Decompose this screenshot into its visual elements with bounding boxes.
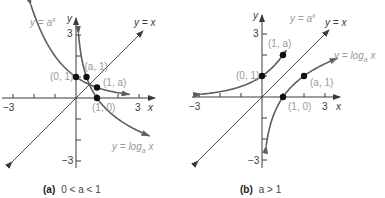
figure: −3 3 x 3 −3 y y = x y = ax y = loga x (0… [0, 0, 385, 198]
point-marker [73, 74, 79, 80]
point-label: (a, 1) [310, 77, 333, 88]
x-axis-label: x [147, 102, 154, 113]
panel-a: −3 3 x 3 −3 y y = x y = ax y = loga x (0… [2, 5, 156, 195]
exponential-label: y = ax [289, 12, 316, 24]
point-label: (1, a) [268, 38, 291, 49]
point-label: (1, 0) [92, 102, 115, 113]
point-marker [259, 73, 265, 79]
point-label: (0, 1) [50, 71, 73, 82]
y-tick-label-min: −3 [62, 155, 74, 166]
x-tick-label-min: −3 [189, 101, 201, 112]
caption-b: (b)a > 1 [240, 184, 282, 195]
exponential-label: y = ax [29, 16, 56, 28]
x-axis-label: x [335, 101, 342, 112]
logarithmic-label: y = loga x [111, 141, 154, 154]
point-label: (a, 1) [85, 61, 108, 72]
identity-label: y = x [324, 17, 347, 28]
point-marker [94, 95, 100, 101]
point-marker [83, 74, 89, 80]
x-tick-label-max: 3 [135, 102, 141, 113]
identity-label: y = x [133, 17, 156, 28]
identity-line [198, 30, 329, 161]
point-label: (1, 0) [288, 101, 311, 112]
point-marker [301, 73, 307, 79]
point-label: (1, a) [103, 77, 126, 88]
points: (0, 1)(a, 1)(1, a)(1, 0) [50, 61, 126, 113]
x-tick-label-max: 3 [322, 101, 328, 112]
point-marker [94, 84, 100, 90]
x-tick-label-min: −3 [3, 102, 15, 113]
y-tick-label-max: 3 [67, 28, 73, 39]
y-axis-label: y [66, 13, 73, 24]
points: (0, 1)(1, a)(a, 1)(1, 0) [236, 38, 333, 112]
point-marker [280, 94, 286, 100]
logarithmic-label: y = loga x [333, 50, 376, 63]
y-axis-label: y [252, 10, 259, 21]
y-tick-label-max: 3 [253, 28, 259, 39]
point-marker [280, 52, 286, 58]
point-label: (0, 1) [236, 70, 259, 81]
panel-b: −3 3 x 3 −3 y y = x y = ax y = loga x (0… [189, 10, 376, 195]
caption-a: (a)0 < a < 1 [43, 184, 101, 195]
y-tick-label-min: −3 [248, 155, 260, 166]
